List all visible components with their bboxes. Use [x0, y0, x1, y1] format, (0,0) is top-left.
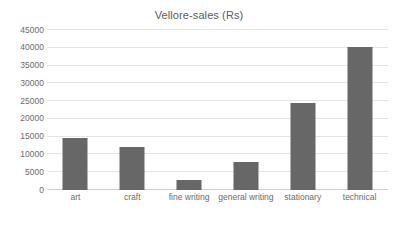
- y-axis-tick-label: 45000: [0, 26, 44, 35]
- x-axis-category-label: craft: [104, 192, 161, 203]
- x-axis-category-label: stationary: [274, 192, 331, 203]
- bar[interactable]: [347, 47, 372, 190]
- bar[interactable]: [63, 138, 88, 190]
- bar-slot: [161, 30, 218, 190]
- x-axis-category-label: general writing: [218, 192, 275, 203]
- x-axis-category-label: art: [47, 192, 104, 203]
- x-axis-category-label: fine writing: [161, 192, 218, 203]
- y-axis-tick-label: 40000: [0, 43, 44, 52]
- bar-slot: [104, 30, 161, 190]
- bar-chart: Vellore-sales (Rs) 050001000015000200002…: [0, 0, 398, 230]
- x-axis-category-label: technical: [331, 192, 388, 203]
- bar[interactable]: [290, 103, 315, 190]
- bar[interactable]: [233, 162, 258, 190]
- x-axis-category-labels: artcraftfine writinggeneral writingstati…: [47, 192, 388, 228]
- bars-layer: [47, 30, 388, 190]
- y-axis-tick-label: 25000: [0, 97, 44, 106]
- bar-slot: [274, 30, 331, 190]
- bar-slot: [47, 30, 104, 190]
- chart-title: Vellore-sales (Rs): [0, 9, 398, 21]
- y-axis-tick-label: 35000: [0, 61, 44, 70]
- bar-slot: [218, 30, 275, 190]
- y-axis-tick-label: 0: [0, 186, 44, 195]
- y-axis-tick-label: 20000: [0, 114, 44, 123]
- bar[interactable]: [120, 147, 145, 190]
- y-axis-tick-label: 10000: [0, 150, 44, 159]
- y-axis-tick-label: 5000: [0, 168, 44, 177]
- y-axis-tick-label: 15000: [0, 132, 44, 141]
- y-axis-tick-labels: 0500010000150002000025000300003500040000…: [0, 0, 44, 230]
- bar[interactable]: [177, 180, 202, 190]
- bar-slot: [331, 30, 388, 190]
- y-axis-tick-label: 30000: [0, 79, 44, 88]
